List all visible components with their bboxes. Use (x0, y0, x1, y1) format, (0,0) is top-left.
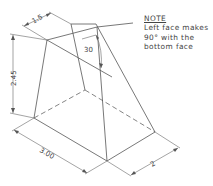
dim-label-top-depth: 1.5 (31, 13, 45, 25)
note-block: NOTE Left face makes 90° with the bottom… (144, 14, 209, 51)
dim-label-height: 2.45 (10, 70, 18, 86)
note-heading: NOTE (144, 14, 209, 23)
dimension-height: 2.45 (10, 34, 47, 118)
dim-label-angle: 30 (84, 46, 93, 54)
dim-label-base-width: 3.00 (38, 146, 56, 161)
note-line-2: 90° with the (144, 33, 209, 42)
note-line-1: Left face makes (144, 23, 209, 32)
dimension-base-width: 3.00 (12, 118, 107, 174)
bottom-face (34, 90, 155, 161)
note-line-3: bottom face (144, 42, 209, 51)
solid-edges (34, 23, 155, 161)
